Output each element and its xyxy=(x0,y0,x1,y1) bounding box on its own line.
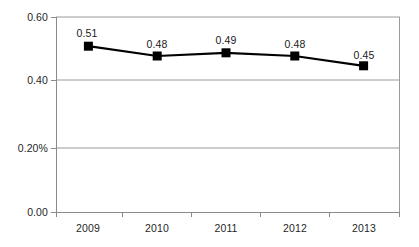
y-axis-ticks xyxy=(51,18,56,213)
line-chart: 0.60 0.40 0.20% 0.00 2009 2010 2011 2012… xyxy=(0,0,419,247)
x-axis-label-2012: 2012 xyxy=(269,222,321,234)
plot-area-background xyxy=(56,17,400,212)
data-marker-2009[interactable] xyxy=(84,42,93,51)
y-axis-label-0: 0.60 xyxy=(4,11,48,23)
data-label-2011: 0.49 xyxy=(201,34,251,46)
y-axis-label-3: 0.00 xyxy=(4,206,48,218)
data-marker-2012[interactable] xyxy=(290,52,299,61)
data-marker-2010[interactable] xyxy=(153,52,162,61)
data-label-2013: 0.45 xyxy=(339,49,389,61)
x-axis-label-2009: 2009 xyxy=(62,222,114,234)
data-label-2009: 0.51 xyxy=(62,27,112,39)
data-marker-2011[interactable] xyxy=(222,48,231,57)
x-axis-label-2010: 2010 xyxy=(131,222,183,234)
y-axis-label-2: 0.20% xyxy=(0,142,48,154)
y-axis-label-1: 0.40 xyxy=(4,74,48,86)
data-label-2012: 0.48 xyxy=(270,38,320,50)
x-axis-label-2013: 2013 xyxy=(338,222,390,234)
x-axis-label-2011: 2011 xyxy=(200,222,252,234)
data-label-2010: 0.48 xyxy=(132,38,182,50)
data-marker-2013[interactable] xyxy=(359,61,368,70)
